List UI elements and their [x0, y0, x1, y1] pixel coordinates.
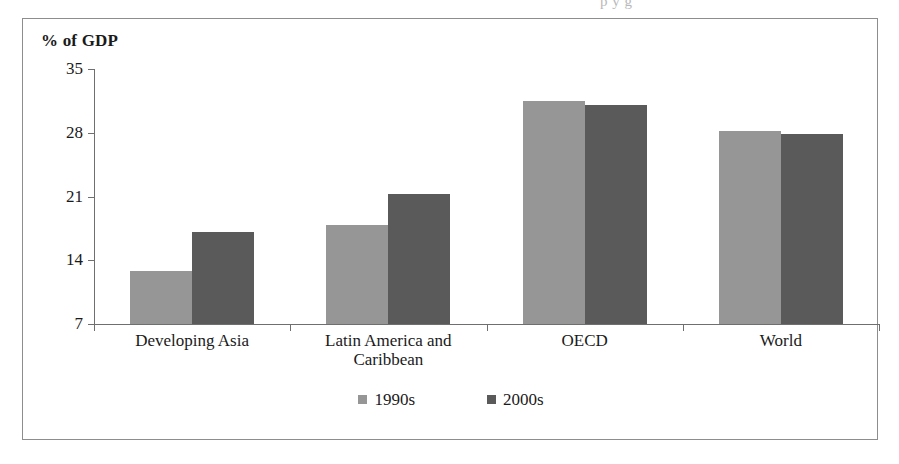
- bleed-text: p y g: [600, 0, 633, 10]
- x-axis-tick: [487, 324, 488, 331]
- bar-1990s-oecd: [523, 101, 585, 324]
- x-axis-category-label: Developing Asia: [94, 331, 290, 350]
- y-axis-tick-label: 28: [66, 123, 83, 143]
- bar-2000s-world: [781, 134, 843, 324]
- x-axis-category-label: Latin America and Caribbean: [290, 331, 486, 369]
- legend-item-2000s: 2000s: [487, 391, 544, 408]
- legend-swatch-icon: [358, 395, 367, 404]
- bar-1990s-latin-america-and-caribbean: [326, 225, 388, 324]
- y-axis-tick-label: 21: [66, 187, 83, 207]
- bar-2000s-developing-asia: [192, 232, 254, 324]
- bar-1990s-developing-asia: [130, 271, 192, 324]
- y-axis-tick-labels: 714212835: [23, 19, 83, 441]
- y-axis-tick-label: 35: [66, 59, 83, 79]
- x-axis-tick: [879, 324, 880, 331]
- x-axis-tick: [683, 324, 684, 331]
- legend-swatch-icon: [487, 395, 496, 404]
- page-bleed-text: p y g: [0, 0, 899, 16]
- legend-item-1990s: 1990s: [358, 391, 415, 408]
- x-axis-tick: [290, 324, 291, 331]
- bar-2000s-latin-america-and-caribbean: [388, 194, 450, 324]
- x-axis-category-label: World: [683, 331, 879, 350]
- bar-2000s-oecd: [585, 105, 647, 324]
- figure-frame: % of GDP 714212835 Developing AsiaLatin …: [22, 18, 878, 440]
- x-axis-category-label: OECD: [487, 331, 683, 350]
- y-axis-line: [94, 69, 95, 325]
- y-axis-tick-label: 14: [66, 250, 83, 270]
- bar-1990s-world: [719, 131, 781, 324]
- chart-legend: 1990s2000s: [23, 391, 879, 408]
- x-axis-tick: [94, 324, 95, 331]
- y-axis-tick-label: 7: [75, 314, 84, 334]
- legend-label: 1990s: [374, 391, 415, 408]
- legend-label: 2000s: [503, 391, 544, 408]
- bar-chart-plot-area: % of GDP 714212835 Developing AsiaLatin …: [23, 19, 879, 441]
